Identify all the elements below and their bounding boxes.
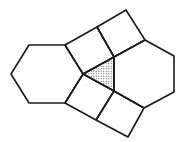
top-right-square <box>97 10 145 57</box>
bottom-right-square <box>96 91 144 137</box>
center-triangle-shaded <box>83 57 114 91</box>
diagram-canvas <box>0 0 186 142</box>
right-hexagon <box>114 40 174 108</box>
geometry-figure <box>0 0 186 142</box>
left-hexagon <box>11 45 83 103</box>
